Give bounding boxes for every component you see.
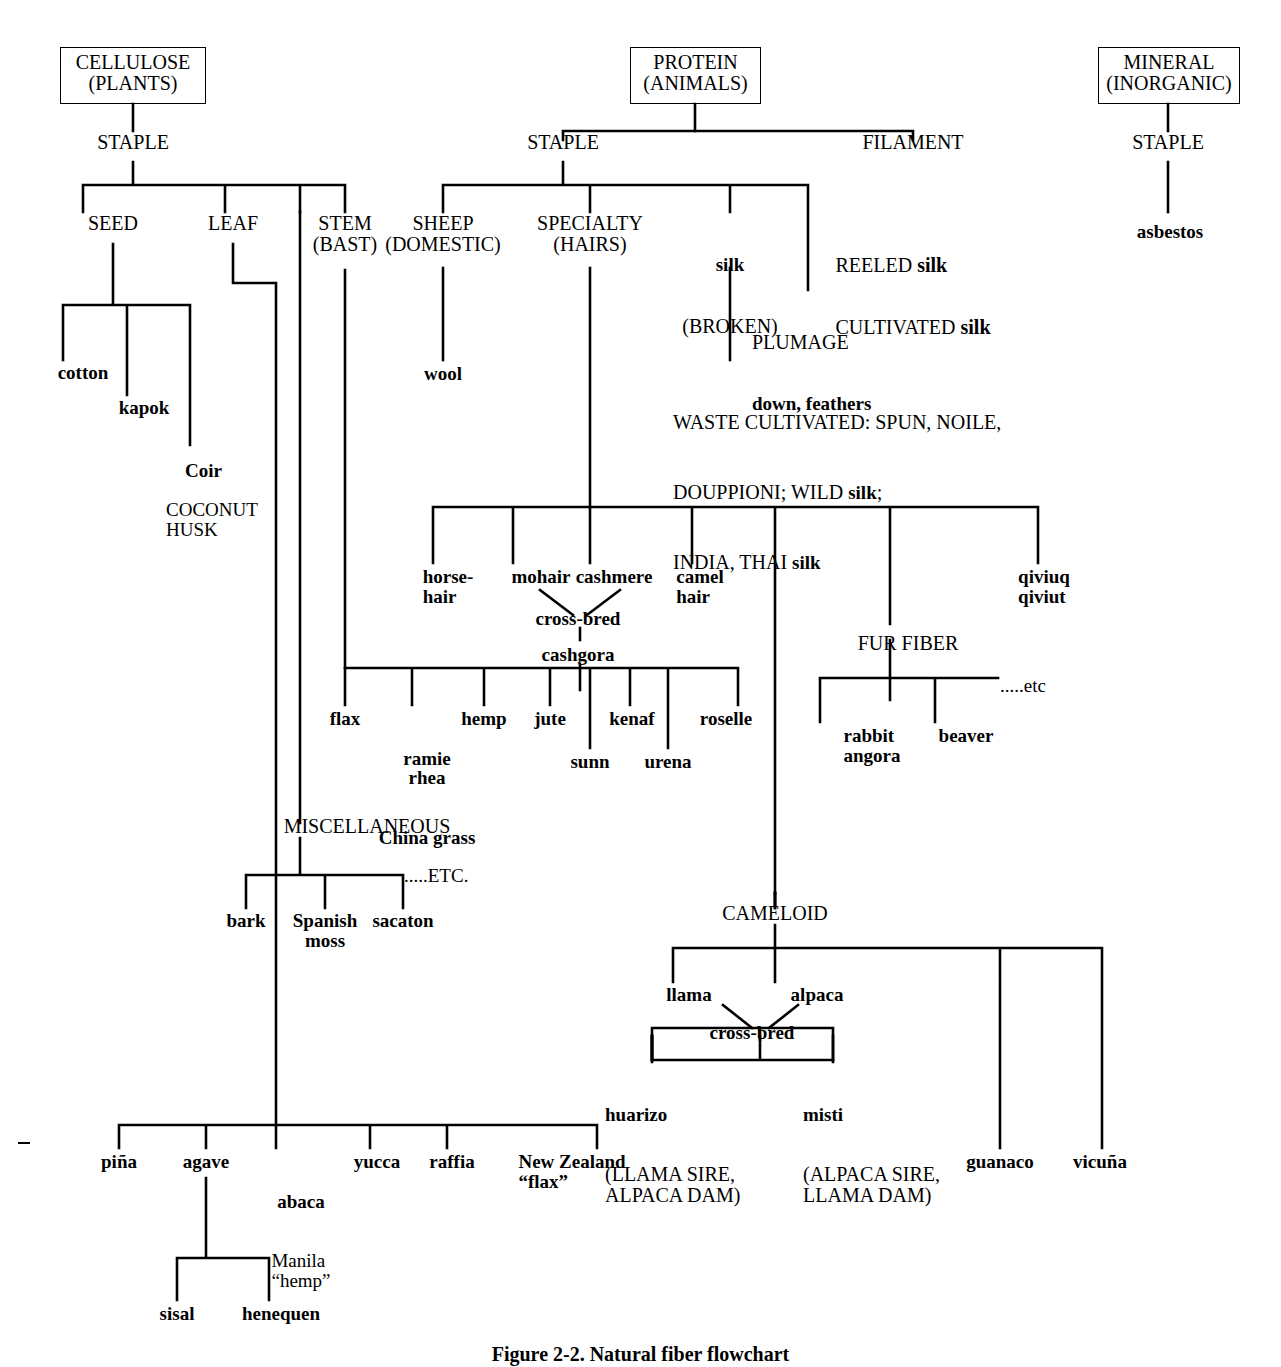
node-cameloid: CAMELOID (722, 903, 828, 924)
leaf-jute: jute (534, 709, 566, 729)
leaf-agave: agave (183, 1152, 229, 1172)
waste-silk-line-2: DOUPPIONI; WILD silk; (673, 481, 1001, 504)
leaf-qiviuq: qiviuq qiviut (1018, 567, 1070, 607)
leaf-yucca: yucca (354, 1152, 400, 1172)
node-fur-fiber: FUR FIBER (858, 633, 959, 654)
root-protein: PROTEIN (ANIMALS) (630, 47, 761, 104)
leaf-ramie-bold: ramie rhea (379, 749, 476, 789)
leaf-coir: Coir COCONUT HUSK (166, 441, 258, 579)
leaf-huarizo-bold: huarizo (605, 1105, 740, 1125)
leaf-wool: wool (424, 364, 462, 384)
leaf-sacaton: sacaton (372, 911, 433, 931)
leaf-ramie: ramie rhea China grass (379, 709, 476, 887)
leaf-huarizo-caps: (LLAMA SIRE, ALPACA DAM) (605, 1164, 740, 1206)
leaf-sisal: sisal (160, 1304, 195, 1324)
leaf-flax: flax (330, 709, 361, 729)
leaf-spanish-moss: Spanish moss (293, 911, 357, 951)
leaf-vicuna: vicuña (1073, 1152, 1127, 1172)
plumage-caps: PLUMAGE (752, 332, 871, 353)
root-cellulose: CELLULOSE (PLANTS) (60, 47, 206, 104)
node-stem-bast: STEM (BAST) (313, 213, 377, 255)
figure-caption: Figure 2-2. Natural fiber flowchart (0, 1343, 1281, 1366)
leaf-henequen: henequen (242, 1304, 320, 1324)
node-sheep: SHEEP (DOMESTIC) (385, 213, 501, 255)
leaf-cashgora: cashgora (542, 645, 615, 665)
silk-broken-bold: silk (682, 255, 778, 275)
leaf-beaver: beaver (939, 726, 994, 746)
leaf-rabbit-angora: rabbit angora (844, 726, 901, 766)
leaf-abaca-bold: abaca (271, 1192, 330, 1212)
leaf-roselle: roselle (700, 709, 752, 729)
root-cellulose-label: CELLULOSE (PLANTS) (61, 52, 205, 94)
leaf-misti-bold: misti (803, 1105, 940, 1125)
leaf-horsehair: horse- hair (423, 567, 474, 607)
protein-staple: STAPLE (527, 132, 599, 153)
leaf-asbestos: asbestos (1137, 222, 1204, 242)
root-mineral: MINERAL (INORGANIC) (1098, 47, 1240, 104)
leaf-guanaco: guanaco (966, 1152, 1034, 1172)
protein-filament: FILAMENT (862, 132, 963, 153)
leaf-kapok: kapok (119, 398, 170, 418)
node-specialty-hairs: SPECIALTY (HAIRS) (537, 213, 643, 255)
node-miscellaneous: MISCELLANEOUS (284, 816, 451, 837)
fur-fiber-etc: .....etc (1000, 676, 1046, 696)
leaf-camel-hair: camel hair (676, 567, 723, 607)
leaf-urena: urena (644, 752, 691, 772)
node-seed: SEED (88, 213, 138, 234)
leaf-coir-caps: COCONUT HUSK (166, 500, 258, 540)
leaf-cashmere: cashmere (576, 567, 653, 587)
figure-canvas: CELLULOSE (PLANTS) STAPLE SEED LEAF STEM… (0, 0, 1281, 1367)
leaf-misti-caps: (ALPACA SIRE, LLAMA DAM) (803, 1164, 940, 1206)
leaf-hemp: hemp (461, 709, 506, 729)
mineral-staple: STAPLE (1132, 132, 1204, 153)
leaf-mohair: mohair (511, 567, 570, 587)
leaf-abaca-caps: Manila “hemp” (271, 1251, 330, 1291)
leaf-coir-bold: Coir (185, 460, 222, 481)
crop-mark (18, 1142, 30, 1144)
leaf-llama: llama (666, 985, 711, 1005)
leaf-pina: piña (101, 1152, 137, 1172)
leaf-huarizo: huarizo (LLAMA SIRE, ALPACA DAM) (605, 1065, 740, 1245)
miscellaneous-etc: .....ETC. (404, 866, 468, 886)
hairs-cross-bred: cross-bred (536, 609, 621, 629)
node-leaf: LEAF (208, 213, 258, 234)
leaf-raffia: raffia (429, 1152, 474, 1172)
leaf-cotton: cotton (58, 363, 109, 383)
cameloid-cross-bred: cross-bred (710, 1023, 795, 1043)
leaf-sunn: sunn (570, 752, 609, 772)
leaf-alpaca: alpaca (791, 985, 844, 1005)
root-mineral-label: MINERAL (INORGANIC) (1099, 52, 1239, 94)
leaf-kenaf: kenaf (609, 709, 654, 729)
root-protein-label: PROTEIN (ANIMALS) (631, 52, 760, 94)
leaf-misti: misti (ALPACA SIRE, LLAMA DAM) (803, 1065, 940, 1245)
filament-line-1: REELED silk (835, 255, 990, 276)
cellulose-staple: STAPLE (97, 132, 169, 153)
leaf-bark: bark (226, 911, 265, 931)
waste-silk-line-1: WASTE CULTIVATED: SPUN, NOILE, (673, 411, 1001, 434)
